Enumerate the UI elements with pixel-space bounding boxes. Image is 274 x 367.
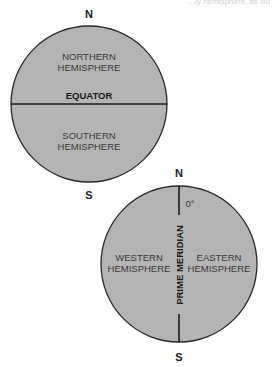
north-label: N [85,8,93,20]
northern-hemisphere-label-2: HEMISPHERE [58,62,121,73]
equator-label: EQUATOR [66,90,113,101]
northern-hemisphere-label-1: NORTHERN [62,51,116,62]
cropped-caption-text: …ly hemisphere, as illu [187,0,270,6]
meridian-globe: N 0° PRIME MERIDIAN WESTERN HEMISPHERE E… [101,167,257,363]
southern-hemisphere-label-1: SOUTHERN [62,130,115,141]
zero-degree-label: 0° [185,198,194,209]
north-label: N [175,167,183,179]
south-label: S [85,189,92,201]
equator-globe: N NORTHERN HEMISPHERE EQUATOR SOUTHERN H… [11,8,167,201]
south-label: S [175,351,182,363]
western-hemisphere-label-2: HEMISPHERE [108,263,171,274]
eastern-hemisphere-label-2: HEMISPHERE [188,263,251,274]
western-hemisphere-label-1: WESTERN [115,252,163,263]
prime-meridian-label: PRIME MERIDIAN [174,225,185,305]
southern-hemisphere-label-2: HEMISPHERE [58,141,121,152]
hemispheres-diagram: …ly hemisphere, as illu N NORTHERN HEMIS… [0,0,274,367]
eastern-hemisphere-label-1: EASTERN [197,252,242,263]
